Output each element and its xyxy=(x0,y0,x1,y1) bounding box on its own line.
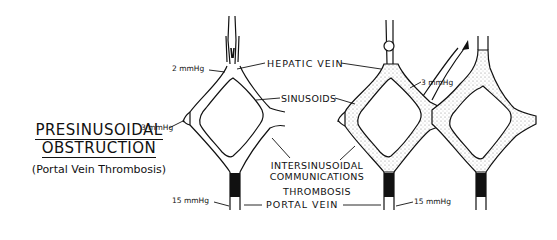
thrombosis-block-middle xyxy=(384,173,394,197)
pressure-sinusoid-right: 3 mmHg xyxy=(421,78,453,87)
pressure-portal-right: 15 mmHg xyxy=(414,197,451,206)
label-portal-vein: PORTAL VEIN xyxy=(266,199,338,210)
thrombosis-block-right xyxy=(476,173,486,197)
label-sinusoids: SINUSOIDS xyxy=(281,93,336,104)
pressure-portal-left: 15 mmHg xyxy=(172,196,209,205)
pressure-hepatic-left: 2 mmHg xyxy=(172,64,204,73)
flow-arrow-icon xyxy=(462,40,469,50)
pressure-sinusoid-left: 3 mmHg xyxy=(141,123,173,132)
label-thrombosis: THROMBOSIS xyxy=(262,186,372,197)
label-hepatic-vein: HEPATIC VEIN xyxy=(267,58,344,69)
thrombosis-block-left xyxy=(230,173,240,197)
occluded-vein-circle xyxy=(384,41,394,51)
label-intersinusoidal-communications: INTERSINUSOIDAL COMMUNICATIONS xyxy=(262,160,372,182)
